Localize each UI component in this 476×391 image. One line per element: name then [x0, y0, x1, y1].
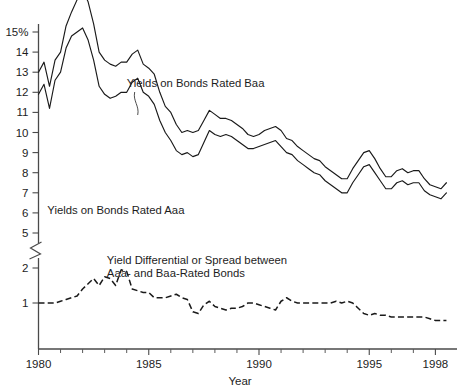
y-tick-label-6: 6 — [22, 207, 28, 219]
y-tick-label-12: 12 — [16, 86, 29, 98]
x-tick-label-1990: 1990 — [246, 358, 272, 370]
x-axis-tick-labels: 19801985199019951998 — [26, 358, 448, 370]
y-tick-label-7: 7 — [22, 187, 28, 199]
y-tick-label-8: 8 — [22, 167, 28, 179]
x-axis-ticks — [39, 349, 436, 355]
y-tick-label-lower-1: 1 — [22, 297, 28, 309]
y-tick-label-5: 5 — [22, 227, 28, 239]
x-axis-title: Year — [228, 375, 251, 387]
y-axis-tick-labels: 15%14131211109876521 — [5, 26, 29, 309]
x-tick-label-1980: 1980 — [26, 358, 52, 370]
y-tick-label-15: 15% — [5, 26, 28, 38]
annotation-aaa-label: Yields on Bonds Rated Aaa — [47, 204, 185, 216]
annotation-spread-label-line1: Yield Differential or Spread between — [107, 254, 287, 266]
x-axis-group: 19801985199019951998 Year — [26, 349, 457, 387]
x-tick-label-1998: 1998 — [423, 358, 449, 370]
x-tick-label-1985: 1985 — [136, 358, 162, 370]
bond-yields-chart-figure: 15%14131211109876521 1980198519901995199… — [0, 0, 476, 391]
y-tick-label-11: 11 — [17, 106, 29, 118]
y-tick-label-14: 14 — [16, 46, 29, 58]
annotation-spread-label-line2: Aaa- and Baa-Rated Bonds — [107, 267, 246, 279]
baa-label-leader-line — [134, 92, 138, 115]
y-tick-label-10: 10 — [16, 127, 29, 139]
y-tick-label-13: 13 — [16, 66, 29, 78]
annotation-baa-label: Yields on Bonds Rated Baa — [127, 77, 265, 89]
x-tick-label-1995: 1995 — [356, 358, 382, 370]
y-axis-group: 15%14131211109876521 — [5, 24, 41, 349]
chart-svg: 15%14131211109876521 1980198519901995199… — [0, 0, 476, 391]
y-tick-label-9: 9 — [22, 147, 28, 159]
y-tick-label-lower-2: 2 — [22, 262, 28, 274]
annotations-group: Yields on Bonds Rated Baa Yields on Bond… — [47, 77, 287, 279]
y-axis-ticks — [33, 32, 39, 303]
series-line-baa — [39, 0, 447, 189]
y-axis-break-icon — [30, 242, 42, 259]
